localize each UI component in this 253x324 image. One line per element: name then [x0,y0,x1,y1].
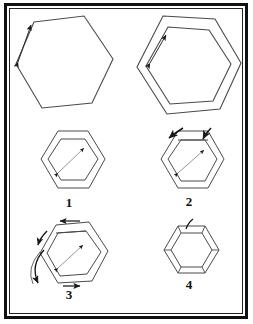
hexagon-inner-outline-step-4 [171,233,212,267]
double-headed-edge-arrow-top-left [18,25,31,62]
curved-arrow-top-step-4 [186,219,193,229]
panel-step-3 [31,221,108,286]
curved-fold-arrow-left-step-2 [169,128,183,138]
double-headed-edge-arrow-top-right [150,35,166,63]
panel-top-right-hexagon [137,16,241,114]
diagram-sheet: 1 2 3 4 [0,0,253,324]
hexagon-outer-outline-top-right [137,16,241,114]
step-4-caption: 4 [177,277,201,293]
step-1-caption: 1 [57,195,81,211]
diagonal-double-arrow-step-1 [58,148,84,173]
diagram-canvas [0,0,253,324]
panel-step-1 [41,131,105,188]
panel-top-left-hexagon [16,16,113,108]
hexagon-inner-outline-step-1 [48,139,98,180]
hexagon-outline-top-left [16,16,113,108]
panel-step-4 [164,219,219,273]
hexagon-outer-outline-step-1 [41,131,105,188]
hexagon-inner-outline-top-right [146,27,231,104]
diagonal-double-arrow-step-3 [58,245,83,268]
diagonal-double-arrow-step-2 [178,150,204,173]
curved-fold-arrow-lower-left-step-3 [35,250,44,283]
panel-step-2 [161,128,224,188]
step-2-caption: 2 [177,194,201,210]
step-3-caption: 3 [57,287,81,303]
hexagon-outer-outline-step-3 [40,222,108,283]
fold-crease-line-step-3 [56,231,86,233]
